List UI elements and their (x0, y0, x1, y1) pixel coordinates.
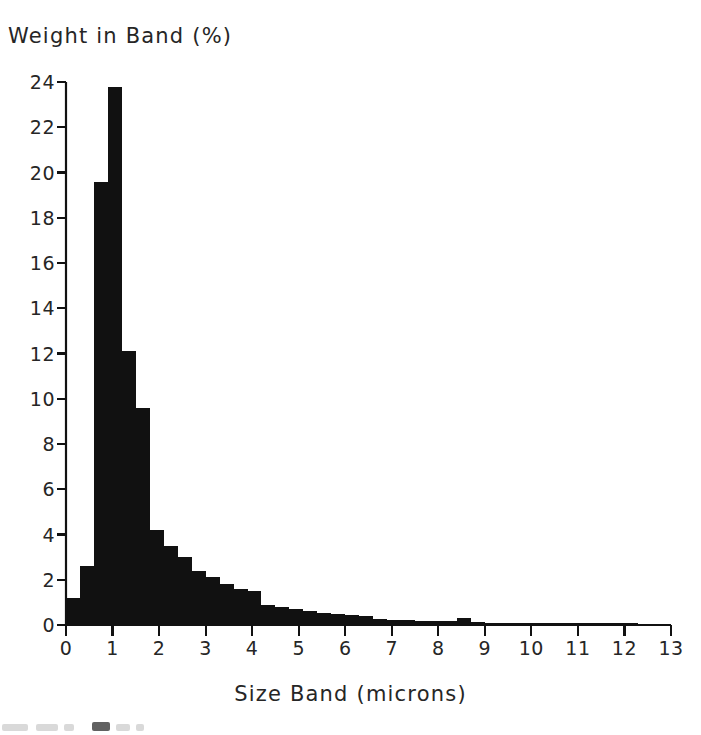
y-axis-tick-label: 18 (30, 207, 55, 229)
scan-smudge (136, 724, 144, 731)
y-axis-tick-label: 8 (42, 433, 55, 455)
y-axis-tick-label: 20 (30, 162, 55, 184)
page-scan-artifact (0, 716, 701, 735)
plot-area (66, 82, 671, 625)
x-axis-tick-label: 2 (153, 637, 166, 659)
histogram-plot (66, 82, 671, 625)
x-axis-tick-label: 11 (565, 637, 590, 659)
histogram-bar (164, 546, 178, 625)
y-axis-tick-label: 22 (30, 116, 55, 138)
histogram-bar (150, 530, 164, 625)
y-axis-tick-label: 16 (30, 252, 55, 274)
y-axis-tick-label: 6 (42, 478, 55, 500)
x-axis-tick-label: 5 (292, 637, 305, 659)
histogram-bar (289, 609, 303, 625)
histogram-bar (303, 611, 317, 625)
x-axis-tick-label: 8 (432, 637, 445, 659)
histogram-bar (192, 571, 206, 625)
scan-smudge (2, 724, 28, 731)
scan-smudge (36, 724, 58, 731)
histogram-figure: Weight in Band (%) 024681012141618202224… (0, 0, 701, 735)
y-axis-tick-label: 10 (30, 388, 55, 410)
histogram-bar (275, 607, 289, 625)
y-axis-tick-label: 2 (42, 569, 55, 591)
y-axis-tick-label: 12 (30, 343, 55, 365)
y-axis-tick-label: 0 (42, 614, 55, 636)
y-axis-tick-label: 24 (30, 71, 55, 93)
histogram-bar (122, 351, 136, 625)
x-axis-title: Size Band (microns) (0, 682, 701, 706)
histogram-bar (66, 598, 80, 625)
histogram-bar (94, 182, 108, 625)
x-axis-tick-label: 6 (339, 637, 352, 659)
histogram-bar (331, 614, 345, 625)
scan-smudge (92, 722, 110, 731)
x-axis-tick-label: 13 (658, 637, 683, 659)
histogram-bar (317, 613, 331, 625)
x-axis-tick-label: 9 (479, 637, 492, 659)
x-axis-tick-label: 7 (385, 637, 398, 659)
scan-smudge (64, 724, 74, 731)
y-axis-tick-label: 14 (30, 297, 55, 319)
histogram-bar (178, 557, 192, 625)
x-axis-tick-label: 1 (106, 637, 119, 659)
x-axis-tick-label: 3 (199, 637, 212, 659)
x-axis-tick-label: 0 (60, 637, 73, 659)
x-axis-tick-label: 4 (246, 637, 259, 659)
histogram-bar (80, 566, 94, 625)
y-axis-tick-label: 4 (42, 524, 55, 546)
histogram-bar (248, 591, 262, 625)
histogram-bar (220, 584, 234, 625)
scan-smudge (116, 724, 130, 731)
x-axis-tick-labels: 012345678910111213 (0, 637, 701, 667)
histogram-bar (261, 605, 275, 625)
y-axis-tick-labels: 024681012141618202224 (0, 0, 55, 735)
histogram-bar (234, 589, 248, 625)
histogram-bar (345, 615, 359, 625)
x-axis-tick-label: 10 (519, 637, 544, 659)
histogram-bars (66, 87, 638, 625)
x-axis-tick-label: 12 (612, 637, 637, 659)
y-axis-ticks (57, 82, 66, 625)
x-axis-ticks (66, 625, 671, 636)
histogram-bar (108, 87, 122, 625)
histogram-bar (136, 408, 150, 625)
histogram-bar (206, 577, 220, 625)
histogram-bar (359, 616, 373, 625)
